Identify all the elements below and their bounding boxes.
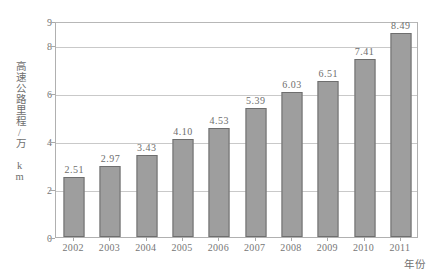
x-tick-mark (73, 237, 74, 241)
x-tick-label: 2008 (271, 242, 311, 253)
x-tick-mark (146, 237, 147, 241)
bar[interactable] (100, 166, 121, 237)
x-tick-mark (364, 237, 365, 241)
x-tick-label: 2002 (53, 242, 93, 253)
x-tick-label: 2009 (307, 242, 347, 253)
bar-chart-figure: 高速公路里程/万 km 024689 2.512.973.434.104.535… (0, 0, 438, 276)
plot-area: 2.512.973.434.104.535.396.036.517.418.49 (55, 22, 418, 238)
bar[interactable] (281, 92, 302, 237)
bar-slot: 2.51 (56, 23, 92, 237)
x-tick-mark (291, 237, 292, 241)
bar-series: 2.512.973.434.104.535.396.036.517.418.49 (56, 23, 417, 237)
bar-value-label: 6.51 (318, 68, 338, 79)
x-tick-label: 2003 (89, 242, 129, 253)
x-tick-mark (400, 237, 401, 241)
x-tick-label: 2005 (162, 242, 202, 253)
bar-slot: 7.41 (346, 23, 382, 237)
x-tick-mark (109, 237, 110, 241)
bar-slot: 4.10 (165, 23, 201, 237)
bar-value-label: 6.03 (282, 79, 302, 90)
bar-value-label: 7.41 (355, 46, 375, 57)
x-tick-label: 2006 (198, 242, 238, 253)
bar-slot: 6.03 (274, 23, 310, 237)
bar-value-label: 3.43 (137, 142, 157, 153)
bar-value-label: 8.49 (391, 20, 411, 31)
bar-slot: 3.43 (129, 23, 165, 237)
bar-slot: 2.97 (92, 23, 128, 237)
x-tick-mark (182, 237, 183, 241)
x-tick-label: 2011 (380, 242, 420, 253)
bar[interactable] (64, 177, 85, 237)
bar[interactable] (173, 139, 194, 237)
bar-value-label: 2.51 (64, 164, 84, 175)
bar[interactable] (245, 108, 266, 237)
x-tick-label: 2004 (126, 242, 166, 253)
bar-value-label: 4.53 (210, 115, 230, 126)
bar[interactable] (318, 81, 339, 237)
bar-value-label: 5.39 (246, 95, 266, 106)
bar-slot: 8.49 (383, 23, 419, 237)
bar-value-label: 2.97 (101, 153, 121, 164)
bar-slot: 5.39 (238, 23, 274, 237)
x-tick-label: 2010 (344, 242, 384, 253)
bar[interactable] (354, 59, 375, 237)
bar-slot: 4.53 (201, 23, 237, 237)
y-tick-mark (49, 238, 55, 239)
bar[interactable] (136, 155, 157, 237)
bar-slot: 6.51 (310, 23, 346, 237)
bar[interactable] (209, 128, 230, 237)
bar[interactable] (390, 33, 411, 237)
x-tick-mark (218, 237, 219, 241)
x-tick-label: 2007 (235, 242, 275, 253)
x-axis-title: 年份 (404, 256, 426, 271)
x-tick-mark (327, 237, 328, 241)
x-tick-mark (255, 237, 256, 241)
bar-value-label: 4.10 (173, 126, 193, 137)
